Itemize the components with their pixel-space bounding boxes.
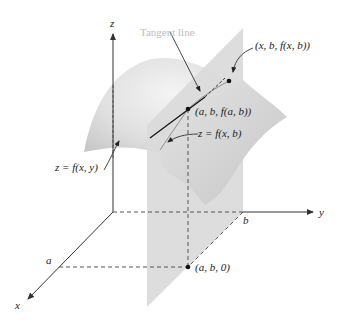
b-tick-label: b	[243, 214, 249, 226]
point-general-label: (x, b, f(x, b))	[255, 39, 310, 52]
point-ab-surface-label: (a, b, f(a, b))	[195, 105, 252, 118]
tangent-line-label: Tangent line	[140, 26, 195, 38]
point-a-b-f-a-b	[186, 107, 191, 112]
y-axis-label: y	[318, 206, 324, 218]
z-axis-label: z	[109, 17, 115, 29]
partial-derivative-diagram: z y x a b Tangent line (x, b, f(x, b)) (…	[0, 0, 342, 325]
point-a-b-0	[186, 265, 191, 270]
point-ab-base-label: (a, b, 0)	[195, 261, 230, 274]
a-tick-label: a	[46, 254, 52, 266]
x-axis-label: x	[14, 299, 20, 311]
curve-label: z = f(x, b)	[197, 127, 242, 140]
surface-label: z = f(x, y)	[54, 161, 98, 174]
point-x-b-f-x-b	[227, 79, 232, 84]
x-axis	[28, 212, 113, 299]
